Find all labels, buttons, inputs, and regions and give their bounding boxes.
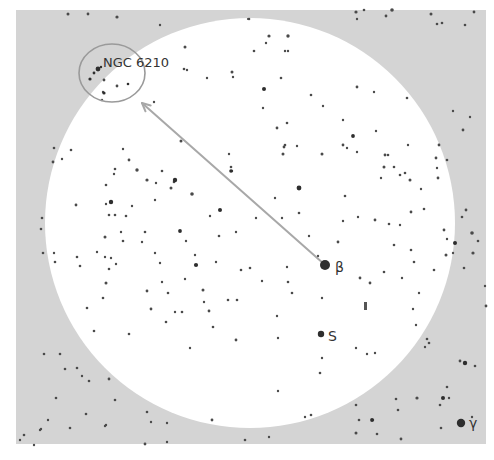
star — [146, 290, 149, 293]
double-star-mark — [364, 302, 367, 310]
star — [150, 421, 152, 423]
star — [446, 159, 449, 162]
star — [277, 337, 279, 339]
star — [436, 23, 439, 26]
star — [274, 197, 276, 199]
star — [87, 13, 90, 16]
star — [388, 223, 391, 226]
star-label: β — [335, 259, 344, 275]
star — [268, 436, 270, 438]
star — [185, 240, 187, 242]
star — [321, 153, 324, 156]
star — [436, 167, 438, 169]
named-star — [318, 331, 324, 337]
star — [70, 149, 73, 152]
star — [127, 83, 130, 86]
star — [420, 188, 422, 190]
star — [484, 285, 486, 287]
star — [114, 214, 117, 217]
star — [104, 425, 106, 427]
star — [114, 168, 117, 171]
star — [423, 208, 426, 211]
star — [116, 85, 119, 88]
star — [211, 419, 214, 422]
star — [291, 292, 294, 295]
star — [255, 217, 257, 219]
star — [395, 398, 398, 401]
star — [357, 216, 359, 218]
star — [356, 86, 359, 89]
star — [230, 166, 233, 169]
star — [113, 173, 115, 175]
star — [125, 215, 128, 218]
star — [322, 105, 324, 107]
star — [55, 397, 58, 400]
star — [286, 122, 289, 125]
star — [190, 192, 194, 196]
star — [154, 199, 156, 201]
star — [441, 396, 445, 400]
star — [102, 297, 105, 300]
star — [93, 72, 96, 75]
star — [284, 50, 286, 52]
star — [380, 177, 382, 179]
star — [469, 116, 471, 118]
star — [262, 107, 264, 109]
star — [286, 34, 289, 37]
star — [183, 68, 186, 71]
star — [170, 187, 173, 190]
star — [384, 154, 387, 157]
star — [412, 308, 414, 310]
star — [128, 333, 131, 336]
star — [236, 299, 239, 302]
star — [297, 186, 302, 191]
star — [437, 177, 440, 180]
star — [393, 166, 396, 169]
star — [383, 166, 386, 169]
star — [375, 130, 377, 132]
star — [319, 372, 322, 375]
star — [244, 439, 247, 442]
star — [356, 151, 358, 153]
star — [304, 416, 306, 418]
star — [282, 153, 285, 156]
star — [174, 311, 176, 313]
star — [135, 168, 138, 171]
star — [115, 15, 118, 18]
star — [463, 361, 467, 365]
star — [173, 178, 177, 182]
star — [180, 140, 183, 143]
star — [86, 307, 89, 310]
star — [355, 347, 357, 349]
star — [79, 265, 82, 268]
star — [108, 378, 111, 381]
star — [131, 205, 133, 207]
star — [59, 353, 62, 356]
star — [363, 9, 366, 12]
star — [54, 261, 57, 264]
star — [342, 220, 344, 222]
star — [280, 77, 283, 80]
star — [85, 413, 88, 416]
star — [448, 397, 450, 399]
star — [105, 203, 107, 205]
star — [96, 251, 98, 253]
star — [247, 18, 249, 20]
star — [40, 428, 42, 430]
star — [428, 342, 431, 345]
star — [383, 271, 386, 274]
star — [265, 42, 267, 44]
star — [122, 148, 124, 150]
star — [155, 182, 157, 184]
star — [108, 268, 111, 271]
star — [145, 178, 148, 181]
star — [441, 22, 444, 25]
star — [337, 241, 340, 244]
star — [52, 161, 55, 164]
star — [42, 252, 45, 255]
star — [203, 301, 205, 303]
star — [150, 308, 153, 311]
star — [477, 240, 480, 243]
star — [128, 159, 131, 162]
star — [189, 347, 191, 349]
